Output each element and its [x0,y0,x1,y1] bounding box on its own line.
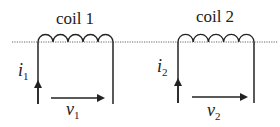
coil-2-title: coil 2 [196,7,234,26]
coil-1-title: coil 1 [56,9,94,28]
coil-1-current-label: i1 [18,60,29,82]
coil-2: coil 2 i2 v2 [157,7,254,122]
coil-2-current-label: i2 [157,56,168,78]
coil-1-winding [38,35,113,42]
coil-1: coil 1 i1 v1 [18,9,113,121]
coil-2-voltage-label: v2 [207,100,221,122]
coil-1-voltage-label: v1 [66,99,80,121]
coupled-coils-diagram: coil 1 i1 v1 coil 2 i2 v2 [0,0,280,127]
coil-2-winding [178,34,254,42]
